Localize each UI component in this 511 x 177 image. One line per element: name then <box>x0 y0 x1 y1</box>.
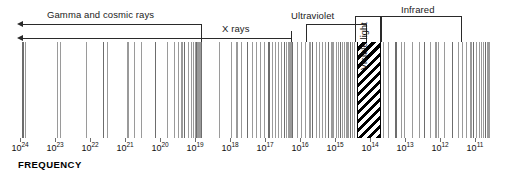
gamma-arrow-head <box>17 21 23 27</box>
spectral-lines-plot <box>0 42 511 138</box>
spectral-line <box>86 42 87 138</box>
spectral-line <box>155 42 156 138</box>
spectral-line <box>473 42 474 138</box>
spectral-line <box>328 42 329 138</box>
tick-exponent: 12 <box>441 141 448 148</box>
tick-base: 10 <box>46 143 56 153</box>
spectral-line <box>430 42 431 138</box>
tick-exponent: 20 <box>161 141 168 148</box>
tick-base: 10 <box>221 143 231 153</box>
spectral-line <box>458 42 459 138</box>
spectral-line <box>201 42 202 138</box>
spectral-line <box>383 42 384 138</box>
tick-exponent: 24 <box>21 141 28 148</box>
spectral-line <box>481 42 482 138</box>
spectral-line <box>316 42 317 138</box>
tick-exponent: 11 <box>477 141 484 148</box>
tick-base: 10 <box>256 143 266 153</box>
spectral-line <box>336 42 337 138</box>
spectral-line <box>301 42 302 138</box>
axis-tick-label: 1020 <box>151 143 168 153</box>
spectral-line <box>292 42 293 138</box>
axis-tick-label: 1013 <box>396 143 413 153</box>
tick-exponent: 21 <box>126 141 133 148</box>
spectral-line <box>319 42 320 138</box>
tick-base: 10 <box>116 143 126 153</box>
spectral-line <box>272 42 273 138</box>
spectral-line <box>103 42 104 138</box>
spectral-line <box>344 42 345 138</box>
spectral-line <box>252 42 253 138</box>
spectral-line <box>241 42 242 138</box>
spectral-line <box>333 42 334 138</box>
spectral-line <box>275 42 276 138</box>
spectral-line <box>412 42 413 138</box>
electromagnetic-spectrum-figure: Gamma and cosmic rays X rays Ultraviolet… <box>0 0 511 177</box>
spectral-line <box>167 42 168 138</box>
spectral-line <box>438 42 439 138</box>
spectral-line <box>312 42 313 138</box>
spectral-line <box>281 42 282 138</box>
spectral-line <box>395 42 397 138</box>
tick-base: 10 <box>396 143 406 153</box>
tick-base: 10 <box>291 143 301 153</box>
spectral-line <box>462 42 463 138</box>
spectral-line <box>184 42 185 138</box>
xrays-arrow-line <box>22 38 292 39</box>
spectral-line <box>322 42 323 138</box>
spectral-line <box>107 42 108 138</box>
axis-tick-label: 1021 <box>116 143 133 153</box>
spectral-line <box>178 42 179 138</box>
spectral-line <box>134 42 135 138</box>
spectral-line <box>141 42 142 138</box>
tick-base: 10 <box>467 143 477 153</box>
spectral-line <box>388 42 389 138</box>
axis-tick-label: 1023 <box>46 143 63 153</box>
spectral-line <box>348 42 349 138</box>
spectral-line <box>193 42 194 138</box>
spectral-line <box>25 42 26 138</box>
spectral-line <box>22 42 24 138</box>
spectral-line <box>268 42 270 138</box>
spectral-line <box>489 42 490 138</box>
spectral-line <box>444 42 445 138</box>
spectral-line <box>485 42 486 138</box>
tick-base: 10 <box>361 143 371 153</box>
gamma-arrow-line <box>22 24 202 25</box>
tick-exponent: 23 <box>56 141 63 148</box>
band-label-ultraviolet: Ultraviolet <box>291 10 334 21</box>
axis-tick-label: 1024 <box>11 143 28 153</box>
spectral-line <box>435 42 437 138</box>
tick-exponent: 14 <box>371 141 378 148</box>
spectral-line <box>483 42 484 138</box>
spectral-line <box>297 42 298 138</box>
band-label-visible-light: Visible light <box>360 20 369 70</box>
spectral-line <box>419 42 420 138</box>
spectral-line <box>350 42 351 138</box>
tick-base: 10 <box>81 143 91 153</box>
tick-base: 10 <box>326 143 336 153</box>
spectral-line <box>452 42 453 138</box>
spectral-line <box>342 42 343 138</box>
band-label-gamma: Gamma and cosmic rays <box>47 9 154 20</box>
xrays-arrow-head <box>17 35 23 41</box>
spectral-line <box>174 42 175 138</box>
spectral-line <box>466 42 467 138</box>
spectral-line <box>286 42 287 138</box>
spectral-line <box>191 42 192 138</box>
spectral-line <box>264 42 265 138</box>
xrays-arrow-stem <box>291 31 292 42</box>
spectral-line <box>256 42 257 138</box>
axis-tick-label: 1014 <box>361 143 378 153</box>
tick-exponent: 19 <box>196 141 203 148</box>
axis-tick-label: 1016 <box>291 143 308 153</box>
spectral-line <box>57 42 58 138</box>
axis-tick-label: 1022 <box>81 143 98 153</box>
spectral-line <box>338 42 339 138</box>
tick-base: 10 <box>151 143 161 153</box>
band-label-xrays: X rays <box>222 23 250 34</box>
tick-exponent: 15 <box>336 141 343 148</box>
spectral-line <box>340 42 341 138</box>
spectral-line <box>401 42 402 138</box>
spectral-line <box>60 42 61 138</box>
